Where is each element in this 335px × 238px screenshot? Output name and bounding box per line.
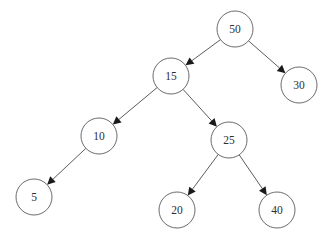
tree-node-20: 20: [159, 192, 195, 228]
tree-nodes: 501530102552040: [16, 11, 317, 228]
edge-line: [239, 155, 262, 189]
node-label: 20: [171, 204, 183, 216]
edge-line: [53, 148, 86, 179]
node-label: 5: [31, 191, 37, 203]
arrowhead-icon: [186, 57, 195, 65]
arrowhead-icon: [188, 187, 196, 196]
edge-line: [192, 40, 221, 61]
arrowhead-icon: [259, 186, 267, 195]
tree-edge-10-to-5: [47, 148, 86, 184]
tree-node-15: 15: [153, 58, 189, 94]
node-label: 50: [229, 23, 241, 35]
tree-node-40: 40: [259, 192, 295, 228]
tree-edge-50-to-30: [249, 41, 286, 73]
edge-line: [193, 154, 219, 189]
tree-node-30: 30: [281, 67, 317, 103]
node-label: 40: [271, 204, 283, 216]
arrowhead-icon: [113, 116, 122, 124]
tree-edge-50-to-15: [186, 40, 221, 66]
tree-node-10: 10: [81, 118, 117, 154]
tree-edge-25-to-40: [239, 155, 267, 195]
tree-edge-15-to-25: [183, 89, 217, 126]
arrowhead-icon: [277, 65, 286, 73]
tree-node-5: 5: [16, 179, 52, 215]
node-label: 25: [223, 134, 235, 146]
node-label: 10: [93, 130, 105, 142]
tree-edge-25-to-20: [188, 154, 219, 195]
edge-line: [249, 41, 280, 68]
edge-line: [183, 89, 211, 120]
binary-tree-diagram: 501530102552040: [0, 0, 335, 238]
tree-node-25: 25: [211, 122, 247, 158]
node-label: 30: [293, 79, 305, 91]
tree-edge-15-to-10: [113, 88, 157, 125]
node-label: 15: [165, 70, 177, 82]
tree-node-50: 50: [217, 11, 253, 47]
edge-line: [119, 88, 157, 120]
